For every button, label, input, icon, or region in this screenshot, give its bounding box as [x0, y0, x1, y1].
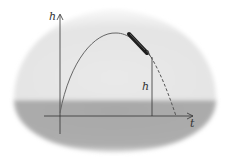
trajectory-diagram: h t h: [0, 0, 229, 163]
x-axis-label: t: [190, 117, 195, 130]
sky-region: [14, 10, 216, 100]
ground-region: [14, 100, 216, 152]
height-label: h: [142, 80, 149, 93]
dome-background: [14, 10, 216, 152]
y-axis-label: h: [49, 10, 56, 23]
